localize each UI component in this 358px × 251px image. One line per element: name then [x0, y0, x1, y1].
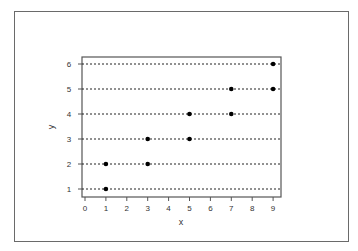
y-tick-label-2: 2 — [67, 160, 72, 169]
y-axis-label: y — [46, 124, 56, 129]
data-point — [187, 112, 192, 117]
data-point — [104, 187, 109, 192]
x-tick-label-6: 6 — [208, 204, 213, 213]
y-tick-label-3: 3 — [67, 135, 72, 144]
data-point — [271, 62, 276, 67]
x-tick-label-1: 1 — [104, 204, 109, 213]
data-point — [187, 137, 192, 142]
data-point — [145, 162, 150, 167]
x-tick-label-8: 8 — [250, 204, 255, 213]
y-tick-label-4: 4 — [67, 110, 72, 119]
x-tick-label-9: 9 — [271, 204, 276, 213]
scatter-chart: 1234560123456789xy — [0, 0, 358, 251]
x-tick-label-2: 2 — [125, 204, 130, 213]
x-tick-label-7: 7 — [229, 204, 234, 213]
x-tick-label-3: 3 — [145, 204, 150, 213]
plot-area-border — [82, 57, 281, 197]
y-tick-label-1: 1 — [67, 185, 72, 194]
data-point — [229, 112, 234, 117]
data-point — [229, 87, 234, 92]
data-point — [104, 162, 109, 167]
x-tick-label-0: 0 — [83, 204, 88, 213]
data-point — [145, 137, 150, 142]
x-axis-label: x — [179, 217, 184, 227]
x-tick-label-4: 4 — [166, 204, 171, 213]
y-tick-label-5: 5 — [67, 85, 72, 94]
x-tick-label-5: 5 — [187, 204, 192, 213]
data-point — [271, 87, 276, 92]
y-tick-label-6: 6 — [67, 60, 72, 69]
